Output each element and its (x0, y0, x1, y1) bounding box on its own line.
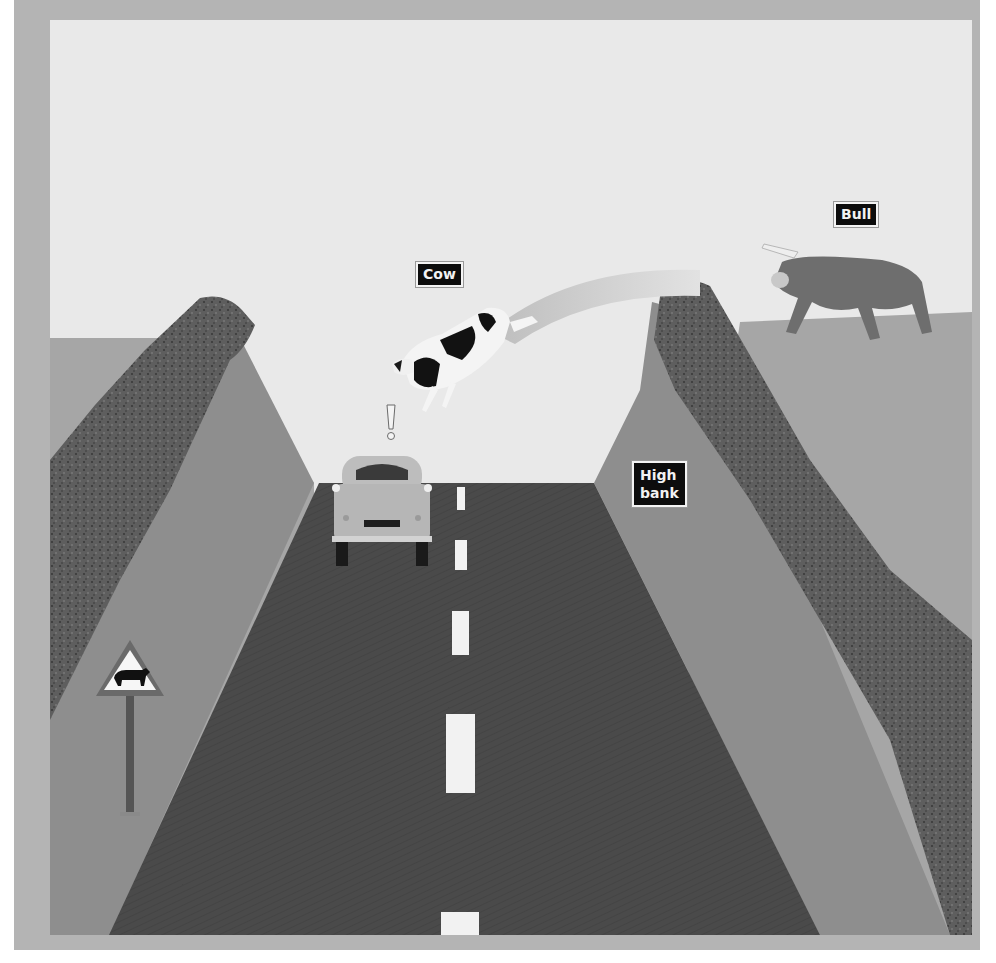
label-cow: Cow (416, 262, 463, 287)
figure-frame: Cow Bull High bank (14, 0, 980, 950)
label-bull: Bull (834, 202, 878, 227)
road-dash-3 (452, 611, 469, 655)
label-high-bank-line-2: bank (640, 484, 679, 502)
road-dash-2 (455, 540, 467, 570)
illustration-scene: Cow Bull High bank (50, 20, 972, 935)
label-high-bank-line-1: High (640, 466, 679, 484)
exclamation-mark (387, 405, 395, 440)
road-dash-5 (441, 912, 479, 935)
road-dash-1 (457, 487, 465, 510)
road-dash-4 (446, 714, 475, 793)
label-high-bank: High bank (632, 461, 687, 507)
